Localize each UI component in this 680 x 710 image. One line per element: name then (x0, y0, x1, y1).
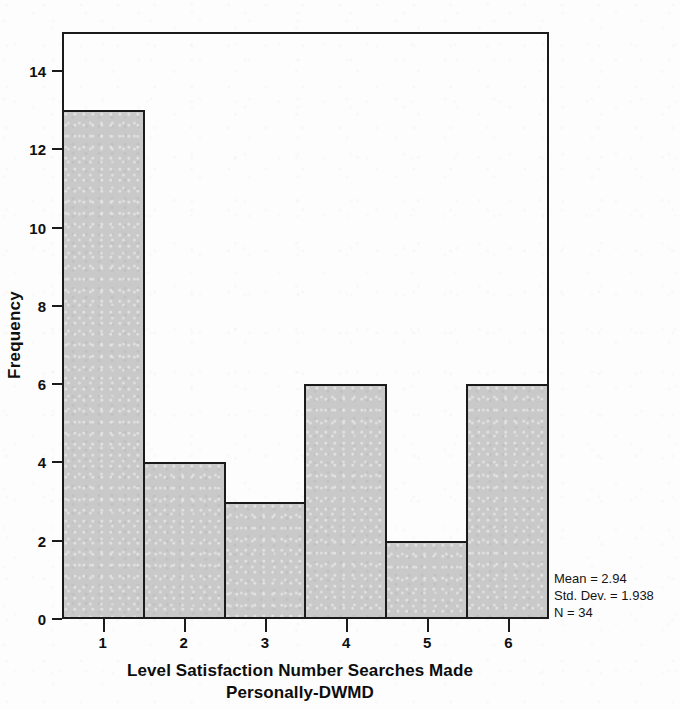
histogram-bar (224, 502, 307, 619)
std-dev-label: Std. Dev. = 1.938 (554, 587, 654, 604)
x-axis-tick-mark (346, 619, 348, 632)
y-axis-title: Frequency (5, 225, 25, 445)
y-axis-tick-mark (52, 227, 62, 229)
y-axis-tick-mark (52, 618, 62, 620)
x-axis-tick-label: 1 (98, 634, 106, 651)
y-axis-tick-mark (52, 461, 62, 463)
y-axis-tick-mark (52, 70, 62, 72)
y-axis-tick-mark (52, 540, 62, 542)
y-axis-tick-mark (52, 305, 62, 307)
x-axis-tick-mark (103, 619, 105, 632)
y-axis-tick-mark (52, 148, 62, 150)
x-axis-tick-label: 2 (180, 634, 188, 651)
histogram-bar (143, 462, 226, 619)
x-axis-title-line: Level Satisfaction Number Searches Made (40, 660, 560, 682)
histogram-bar (385, 541, 468, 619)
y-axis-tick-label: 8 (38, 297, 46, 314)
x-axis-tick-label: 6 (504, 634, 512, 651)
statistics-annotation: Mean = 2.94 Std. Dev. = 1.938 N = 34 (554, 570, 654, 621)
x-axis-tick-mark (427, 619, 429, 632)
histogram-bar (62, 110, 145, 619)
x-axis-tick-label: 5 (423, 634, 431, 651)
histogram-bar (304, 384, 387, 619)
x-axis-tick-label: 4 (342, 634, 350, 651)
histogram-bars (62, 32, 549, 619)
x-axis-tick-mark (508, 619, 510, 632)
histogram-bar (466, 384, 549, 619)
y-axis-tick-label: 14 (29, 63, 46, 80)
y-axis-tick-mark (52, 383, 62, 385)
x-axis-title: Level Satisfaction Number Searches MadeP… (40, 660, 560, 704)
n-label: N = 34 (554, 604, 654, 621)
y-axis-tick-label: 4 (38, 454, 46, 471)
y-axis-tick-label: 10 (29, 219, 46, 236)
y-axis-tick-label: 0 (38, 611, 46, 628)
x-axis-tick-label: 3 (261, 634, 269, 651)
x-axis-tick-mark (265, 619, 267, 632)
y-axis-tick-label: 12 (29, 141, 46, 158)
x-axis-tick-mark (184, 619, 186, 632)
mean-label: Mean = 2.94 (554, 570, 654, 587)
x-axis-title-line: Personally-DWMD (40, 682, 560, 704)
y-axis-tick-label: 2 (38, 532, 46, 549)
y-axis-tick-label: 6 (38, 376, 46, 393)
chart-page: 02468101214 Frequency Level Satisfaction… (0, 0, 680, 710)
